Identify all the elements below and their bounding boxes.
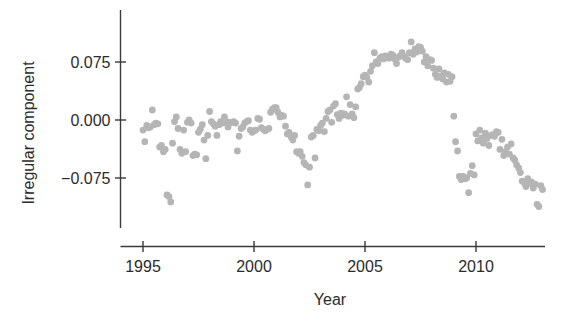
data-point — [436, 66, 443, 73]
data-point — [214, 132, 221, 139]
data-point — [365, 79, 372, 86]
data-point — [149, 107, 156, 114]
data-point — [199, 121, 206, 128]
data-point — [323, 115, 330, 122]
data-point — [141, 138, 148, 145]
data-point — [454, 148, 461, 155]
x-tick-label: 2010 — [458, 258, 494, 275]
data-point — [162, 146, 169, 153]
data-point — [352, 103, 359, 110]
data-point — [358, 80, 365, 87]
chart-figure: 0.0750.000−0.0751995200020052010 Irregul… — [0, 0, 574, 319]
data-point — [280, 113, 287, 120]
data-point — [404, 56, 411, 63]
data-point — [332, 100, 339, 107]
data-point — [282, 123, 289, 130]
data-point — [306, 164, 313, 171]
data-point — [393, 60, 400, 67]
data-point — [450, 113, 457, 120]
data-point — [245, 117, 252, 124]
data-point — [169, 140, 176, 147]
data-point — [452, 138, 459, 145]
data-point — [202, 155, 209, 162]
data-point — [234, 148, 241, 155]
data-point — [428, 57, 435, 64]
data-point — [508, 141, 515, 148]
data-point — [180, 127, 187, 134]
data-point — [232, 120, 239, 127]
y-tick-label: 0.000 — [70, 112, 110, 129]
data-point — [291, 132, 298, 139]
y-axis — [115, 10, 126, 228]
data-point — [343, 93, 350, 100]
data-point — [499, 136, 506, 143]
data-point — [485, 142, 492, 149]
data-point — [206, 108, 213, 115]
data-point — [167, 199, 174, 206]
data-point — [188, 120, 195, 127]
x-tick-label: 1995 — [125, 258, 161, 275]
data-point — [265, 125, 272, 132]
data-point — [465, 189, 472, 196]
data-point — [371, 49, 378, 56]
data-point — [310, 132, 317, 139]
data-point — [236, 133, 243, 140]
data-point — [204, 132, 211, 139]
data-point — [182, 148, 189, 155]
x-axis — [121, 241, 546, 252]
scatter-plot: 0.0750.000−0.0751995200020052010 Irregul… — [0, 0, 574, 319]
data-point — [328, 119, 335, 126]
data-point — [539, 186, 546, 193]
tick-labels-layer: 0.0750.000−0.0751995200020052010 — [61, 54, 494, 275]
data-points-layer — [140, 38, 546, 210]
data-point — [256, 116, 263, 123]
data-point — [321, 128, 328, 135]
data-point — [449, 73, 456, 80]
data-point — [471, 172, 478, 179]
y-axis-title: Irregular component — [20, 61, 37, 205]
y-tick-label: −0.075 — [61, 170, 110, 187]
data-point — [495, 129, 502, 136]
y-tick-label: 0.075 — [70, 54, 110, 71]
x-axis-title: Year — [314, 291, 347, 308]
data-point — [351, 114, 358, 121]
data-point — [299, 153, 306, 160]
x-tick-label: 2000 — [236, 258, 272, 275]
data-point — [408, 38, 415, 45]
data-point — [469, 162, 476, 169]
data-point — [193, 151, 200, 158]
data-point — [312, 154, 319, 161]
data-point — [304, 182, 311, 189]
data-point — [154, 120, 161, 127]
data-point — [535, 203, 542, 210]
data-point — [517, 169, 524, 176]
x-tick-label: 2005 — [347, 258, 383, 275]
data-point — [173, 114, 180, 121]
